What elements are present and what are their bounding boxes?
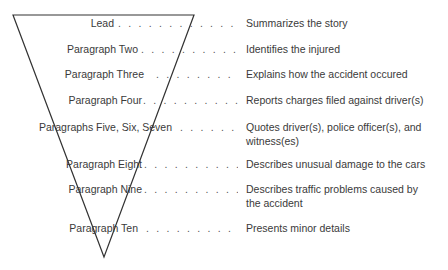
dot-leader: . . . . . . . . . . . . . . . . . . . . … (144, 183, 238, 195)
part-label-paragraphs-five-six-seven: Paragraphs Five, Six, Seven (39, 121, 172, 133)
part-label-paragraph-four: Paragraph Four (68, 94, 142, 106)
dot-leader: . . . . . . . . . . . . . . . . . . . . … (180, 121, 238, 133)
dot-leader: . . . . . . . . . . . . . . . . . . . . … (143, 94, 238, 106)
description-paragraph-four: Reports charges filed against driver(s) (246, 94, 446, 108)
dot-leader: . . . . . . . . . . . . . . . . . . . . … (144, 158, 238, 170)
part-label-paragraph-ten: Paragraph Ten (69, 222, 138, 234)
dot-leader: . . . . . . . . . . . . . . . . . . . . … (156, 68, 238, 80)
part-label-paragraph-three: Paragraph Three (65, 68, 144, 80)
part-label-paragraph-two: Paragraph Two (67, 43, 138, 55)
part-label-paragraph-eight: Paragraph Eight (66, 158, 142, 170)
description-paragraph-ten: Presents minor details (246, 222, 446, 236)
part-label-paragraph-nine: Paragraph Nine (68, 183, 142, 195)
description-paragraphs-five-six-seven: Quotes driver(s), police officer(s), and… (246, 121, 436, 148)
dot-leader: . . . . . . . . . . . . . . . . . . . . … (118, 17, 238, 29)
inverted-pyramid-diagram: Lead . . . . . . . . . . . . . . . . . .… (0, 0, 448, 270)
description-paragraph-nine: Describes traffic problems caused by the… (246, 183, 431, 210)
description-paragraph-two: Identifies the injured (246, 43, 446, 57)
part-label-lead: Lead (91, 17, 114, 29)
description-paragraph-eight: Describes unusual damage to the cars (246, 158, 446, 172)
dot-leader: . . . . . . . . . . . . . . . . . . . . … (146, 222, 238, 234)
description-paragraph-three: Explains how the accident occured (246, 68, 446, 82)
description-lead: Summarizes the story (246, 17, 446, 31)
dot-leader: . . . . . . . . . . . . . . . . . . . . … (141, 43, 238, 55)
